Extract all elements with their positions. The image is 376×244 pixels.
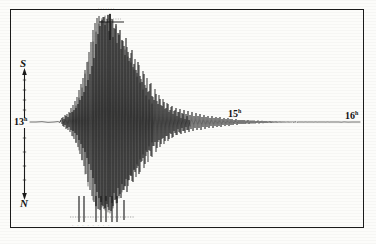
time-value: 16: [345, 110, 355, 121]
time-value: 13: [14, 116, 24, 127]
top-marker-note: · · · · · · ·: [98, 7, 114, 11]
time-unit: h: [238, 108, 241, 114]
seismogram-figure: S N 13h 15h 16h · · · · · · · · · · · · …: [0, 0, 376, 244]
time-unit: h: [355, 110, 358, 116]
time-label-16h: 16h: [345, 110, 358, 121]
bottom-marker-note: · · · · · · · ·: [72, 223, 111, 228]
direction-label-south: S: [20, 58, 26, 69]
seismogram-plot: [0, 0, 376, 244]
time-label-13h: 13h: [14, 116, 27, 127]
time-unit: h: [24, 116, 27, 122]
seismic-trace: [30, 14, 360, 213]
time-label-15h: 15h: [228, 108, 241, 119]
direction-axis: [22, 68, 27, 200]
direction-label-north: N: [20, 198, 28, 209]
time-value: 15: [228, 108, 238, 119]
